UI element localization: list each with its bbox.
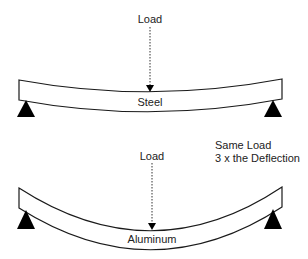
steel-beam-group: Load Steel <box>17 13 282 117</box>
steel-load-label: Load <box>138 13 162 25</box>
beam-deflection-diagram: Load Steel Same Load 3 x the Deflection … <box>0 0 308 259</box>
aluminum-load-label: Load <box>140 150 164 162</box>
aluminum-beam-group: Load Aluminum <box>17 150 282 250</box>
load-arrow-head-icon <box>148 223 156 230</box>
steel-beam-label: Steel <box>137 96 162 108</box>
right-support-icon <box>264 100 282 117</box>
annotation-line-1: Same Load <box>215 139 271 151</box>
aluminum-beam-label: Aluminum <box>128 233 177 245</box>
load-arrow-head-icon <box>146 85 154 92</box>
annotation-line-2: 3 x the Deflection <box>215 152 300 164</box>
